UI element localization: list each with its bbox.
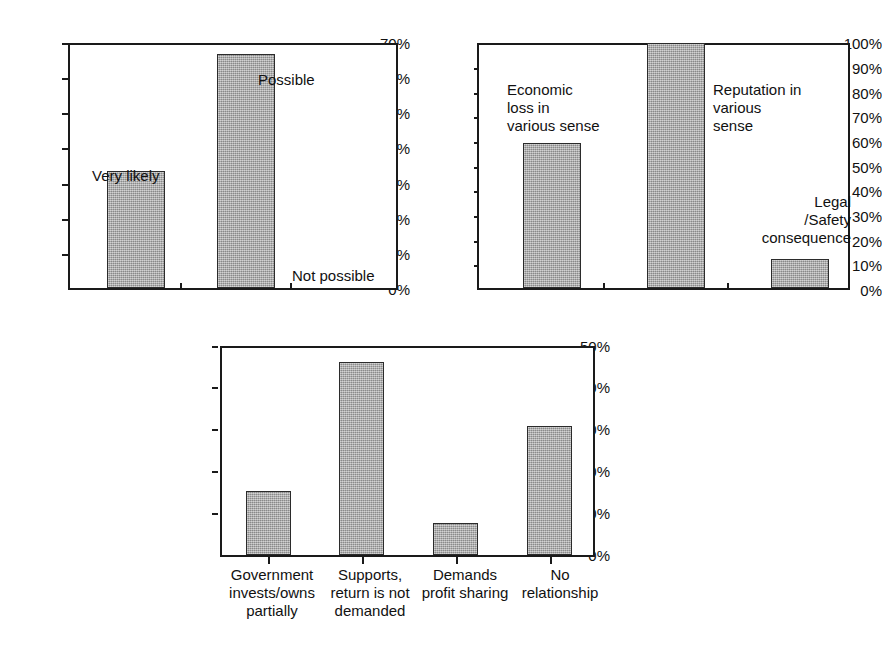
x-tick-mark <box>180 283 182 290</box>
x-tick-mark <box>727 283 729 290</box>
plot-area <box>220 346 595 557</box>
bar-demands-profit-sharing <box>433 523 478 555</box>
chart-government-relationship: 50% 40% 30% 20% 10% 0% Government invest… <box>150 330 610 650</box>
bar-legal-safety <box>771 259 829 288</box>
y-tick-mark <box>212 346 218 348</box>
x-tick-mark <box>268 557 270 564</box>
annotation-legal-safety: Legal /Safety consequence <box>741 193 851 247</box>
chart-consequence: 100% 90% 80% 70% 60% 50% 40% 30% 20% 10%… <box>424 20 882 310</box>
chart-likelihood: 70% 60% 50% 40% 30% 20% 10% 0% Very like… <box>0 20 410 310</box>
y-tick-mark <box>212 471 218 473</box>
plot-area: Very likely Possible Not possible <box>68 43 398 290</box>
bar-possible <box>217 54 275 288</box>
bar-supports-no-return <box>339 362 384 555</box>
bar-government-invests <box>246 491 291 555</box>
bar-very-likely <box>107 171 165 288</box>
x-axis-label-supports: Supports, return is not demanded <box>322 566 418 620</box>
x-axis-label-no-relationship: No relationship <box>510 566 610 602</box>
x-axis-label-demands-profit: Demands profit sharing <box>416 566 514 602</box>
x-axis-label-government-invests: Government invests/owns partially <box>220 566 324 620</box>
annotation-possible: Possible <box>258 71 315 89</box>
bar-reputation <box>647 43 705 288</box>
y-tick-mark <box>212 513 218 515</box>
bar-economic-loss <box>523 143 581 288</box>
annotation-reputation: Reputation in various sense <box>713 81 801 135</box>
plot-area: Economic loss in various sense Reputatio… <box>477 43 850 290</box>
y-tick-mark <box>212 387 218 389</box>
annotation-very-likely: Very likely <box>92 167 160 185</box>
annotation-economic-loss: Economic loss in various sense <box>507 81 600 135</box>
x-tick-mark <box>456 557 458 564</box>
x-tick-mark <box>362 557 364 564</box>
annotation-not-possible: Not possible <box>292 267 375 285</box>
y-tick-mark <box>212 429 218 431</box>
bar-no-relationship <box>527 426 572 555</box>
x-tick-mark <box>550 557 552 564</box>
x-tick-mark <box>603 283 605 290</box>
